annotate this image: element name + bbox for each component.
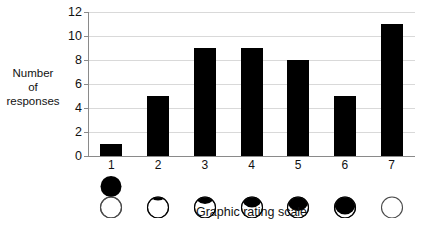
bar — [381, 24, 403, 156]
x-tick-label: 5 — [295, 158, 302, 172]
bar — [100, 144, 122, 156]
bar — [241, 48, 263, 156]
y-tick-label: 8 — [75, 54, 82, 67]
bar — [194, 48, 216, 156]
y-axis-title-line-3: responses — [2, 94, 64, 108]
filled-circle — [101, 176, 122, 197]
y-tick-label: 0 — [75, 150, 82, 163]
x-tick-label: 6 — [342, 158, 349, 172]
y-axis-title-line-1: Number — [2, 66, 64, 80]
x-tick-label: 3 — [201, 158, 208, 172]
bar — [147, 96, 169, 156]
filled-circle — [194, 183, 215, 204]
graphic-rating-scale-chart: Number of responses 024681012 1234567 Gr… — [0, 0, 435, 228]
x-axis-ticks: 1234567 — [88, 158, 415, 174]
x-tick-label: 4 — [248, 158, 255, 172]
y-axis-title: Number of responses — [2, 66, 64, 108]
gridline — [88, 36, 415, 37]
y-tick-label: 10 — [68, 30, 82, 43]
y-tick-label: 12 — [68, 6, 82, 19]
bar — [334, 96, 356, 156]
y-axis-line — [88, 12, 89, 157]
y-tick-label: 6 — [75, 78, 82, 91]
x-tick-label: 1 — [108, 158, 115, 172]
y-axis-title-line-2: of — [2, 80, 64, 94]
y-tick-label: 2 — [75, 126, 82, 139]
y-tick-label: 4 — [75, 102, 82, 115]
x-tick-label: 7 — [388, 158, 395, 172]
x-axis-title: Graphic rating scale — [88, 205, 415, 220]
plot-area: 024681012 — [88, 12, 415, 157]
bar — [287, 60, 309, 156]
x-tick-label: 2 — [155, 158, 162, 172]
gridline — [88, 12, 415, 13]
